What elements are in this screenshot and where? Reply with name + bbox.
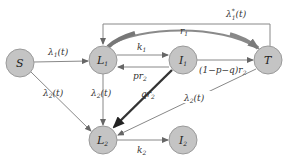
edge-l2-to-i2: k2	[117, 140, 168, 156]
edge-l1-to-t-curved: r1	[108, 26, 258, 48]
label-1-p-q-r2: (1−p−q)r2	[199, 65, 247, 76]
label-pr2: pr2	[133, 71, 147, 82]
label-lambda2-t: λ2(t)	[183, 93, 205, 104]
node-l2: L2	[89, 126, 117, 154]
node-t: T	[254, 46, 282, 74]
label-lambda2-s: λ2(t)	[42, 88, 64, 99]
label-k1: k1	[137, 42, 146, 53]
label-lambda2-l1: λ2(t)	[90, 88, 112, 99]
edge-s-to-l2: λ2(t)	[31, 72, 91, 131]
label-qr2: qr2	[141, 89, 155, 100]
edge-l1-to-l2: λ2(t)	[90, 74, 112, 125]
node-l1: L1	[89, 46, 117, 74]
label-r1: r1	[180, 26, 188, 37]
edge-s-to-l1: λ1(t)	[34, 47, 88, 62]
label-lambda1: λ1(t)	[47, 47, 69, 58]
node-s: S	[6, 49, 34, 77]
flow-diagram: λ*1(t) r1 λ1(t) k1 pr2 (1−p−q)r2 λ2(t) λ…	[0, 0, 291, 158]
node-i1: I1	[169, 46, 197, 74]
label-lambda1-star: λ*1(t)	[225, 7, 247, 21]
svg-text:S: S	[16, 57, 24, 70]
node-i2: I2	[169, 126, 197, 154]
edge-l1-to-i1: k1	[117, 42, 168, 55]
edge-i1-to-t: (1−p−q)r2	[197, 60, 253, 76]
label-k2: k2	[137, 145, 146, 156]
